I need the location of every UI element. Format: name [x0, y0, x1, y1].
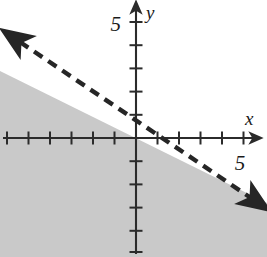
y-axis-label: y — [144, 2, 155, 23]
x-axis-tick-label-5: 5 — [235, 151, 246, 175]
y-axis-tick-label-5: 5 — [111, 12, 122, 36]
solution-shaded-region — [0, 71, 267, 257]
graph-canvas: y x 5 5 — [0, 0, 267, 257]
inequality-graph-figure: y x 5 5 — [0, 0, 267, 257]
x-axis-label: x — [244, 108, 254, 129]
